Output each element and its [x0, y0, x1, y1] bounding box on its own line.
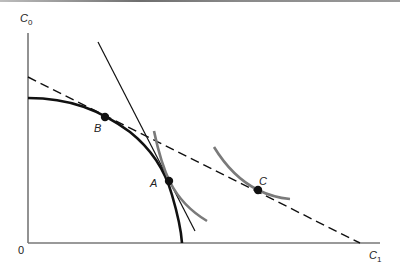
point-B	[101, 113, 109, 121]
label-C: C	[259, 175, 267, 187]
point-A	[165, 177, 173, 185]
indifference-curve-C	[214, 147, 290, 199]
tangent-line-at-A	[98, 42, 195, 231]
label-B: B	[94, 122, 101, 134]
point-C	[254, 186, 262, 194]
x-axis-label: C1	[369, 249, 382, 264]
y-axis-label: C0	[20, 12, 33, 27]
indifference-curve-A	[154, 131, 207, 221]
intertemporal-choice-diagram: B A C C0 C1 0	[0, 0, 400, 277]
origin-label: 0	[18, 244, 24, 256]
market-line-dashed	[28, 77, 360, 243]
label-A: A	[149, 177, 157, 189]
